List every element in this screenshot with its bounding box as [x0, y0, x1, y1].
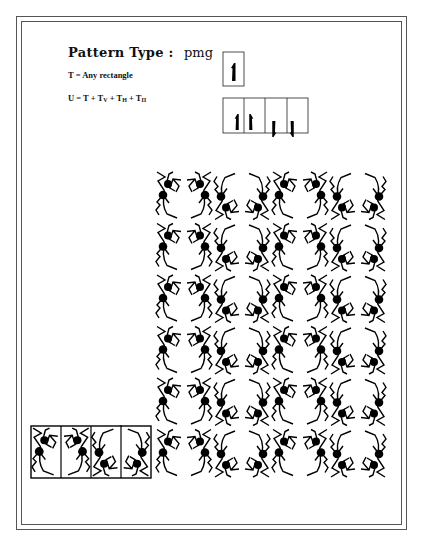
- pattern-illustration: [0, 0, 423, 545]
- tile-glyph-icon: [231, 63, 236, 81]
- glyph-t-icon: [235, 114, 239, 130]
- legend-unit-strip: [223, 98, 308, 137]
- glyph-tv-icon: [249, 114, 253, 130]
- glyph-tpi-icon: [290, 121, 294, 137]
- glyph-th-icon: [272, 121, 276, 137]
- pmg-pattern-grid: [156, 172, 386, 477]
- legend-single-tile: [223, 52, 244, 86]
- unit-cell-sample: [31, 425, 151, 478]
